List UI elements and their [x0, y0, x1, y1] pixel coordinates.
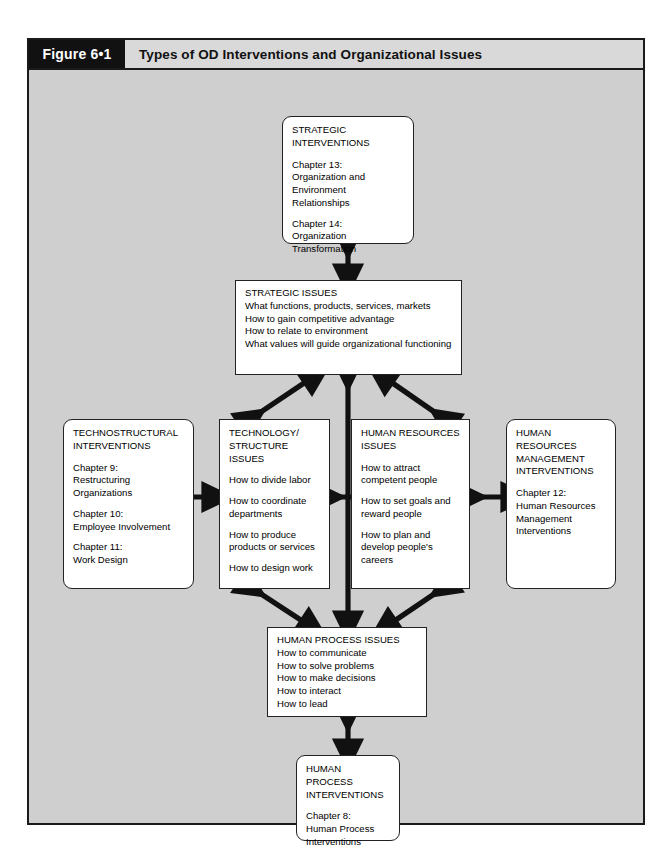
node-human-resources-issues[interactable]: HUMAN RESOURCES ISSUES How to attract co…	[351, 419, 470, 589]
node-item: How to attract competent people	[361, 462, 460, 488]
node-title: HUMAN RESOURCES MANAGEMENT INTERVENTIONS	[516, 427, 606, 478]
node-title: STRATEGIC INTERVENTIONS	[292, 124, 404, 150]
node-item: How to coordinate departments	[229, 495, 320, 521]
node-technostructural-interventions[interactable]: TECHNOSTRUCTURAL INTERVENTIONS Chapter 9…	[63, 419, 194, 589]
node-human-process-issues[interactable]: HUMAN PROCESS ISSUES How to communicate …	[267, 627, 427, 717]
node-item: Chapter 10: Employee Involvement	[73, 508, 184, 534]
node-line: How to gain competitive advantage	[245, 313, 452, 326]
node-strategic-issues[interactable]: STRATEGIC ISSUES What functions, product…	[235, 280, 462, 375]
node-technology-structure-issues[interactable]: TECHNOLOGY/ STRUCTURE ISSUES How to divi…	[219, 419, 330, 589]
node-line: What functions, products, services, mark…	[245, 300, 452, 313]
node-item: How to produce products or services	[229, 529, 320, 555]
node-title: STRATEGIC ISSUES	[245, 287, 452, 300]
node-title: TECHNOLOGY/ STRUCTURE ISSUES	[229, 427, 320, 465]
figure-frame: Figure 6•1 Types of OD Interventions and…	[27, 38, 645, 825]
node-item: How to set goals and reward people	[361, 495, 460, 521]
node-title: TECHNOSTRUCTURAL INTERVENTIONS	[73, 427, 184, 453]
node-item: Chapter 12: Human Resources Management I…	[516, 487, 606, 538]
arrow-technology-structure-issues-to-human-process-issues	[252, 588, 313, 628]
node-strategic-interventions[interactable]: STRATEGIC INTERVENTIONS Chapter 13: Orga…	[282, 116, 414, 244]
node-title: HUMAN PROCESS INTERVENTIONS	[306, 763, 390, 801]
node-item: Chapter 9: Restructuring Organizations	[73, 462, 184, 500]
diagram-canvas: STRATEGIC INTERVENTIONS Chapter 13: Orga…	[29, 70, 643, 825]
arrow-human-resources-issues-to-human-process-issues	[384, 588, 443, 628]
node-item: Chapter 14: Organization Transformation	[292, 218, 404, 256]
node-line: How to interact	[277, 685, 417, 698]
node-item: How to plan and develop people's careers	[361, 529, 460, 567]
node-title: HUMAN RESOURCES ISSUES	[361, 427, 460, 453]
node-line: How to relate to environment	[245, 325, 452, 338]
node-item: Chapter 11: Work Design	[73, 541, 184, 567]
node-line: How to solve problems	[277, 660, 417, 673]
node-human-resources-management-interventions[interactable]: HUMAN RESOURCES MANAGEMENT INTERVENTIONS…	[506, 419, 616, 589]
node-line: How to make decisions	[277, 672, 417, 685]
figure-caption: Types of OD Interventions and Organizati…	[125, 40, 643, 68]
node-line: How to communicate	[277, 647, 417, 660]
figure-title-bar: Figure 6•1 Types of OD Interventions and…	[29, 40, 643, 70]
node-item: Chapter 8: Human Process Interventions	[306, 810, 390, 848]
node-item: How to divide labor	[229, 474, 320, 487]
arrow-human-resources-issues-to-strategic-issues	[381, 375, 443, 418]
node-human-process-interventions[interactable]: HUMAN PROCESS INTERVENTIONS Chapter 8: H…	[296, 755, 400, 841]
node-title: HUMAN PROCESS ISSUES	[277, 634, 417, 647]
node-line: What values will guide organizational fu…	[245, 338, 452, 351]
figure-number: Figure 6•1	[29, 40, 125, 68]
node-line: How to lead	[277, 698, 417, 711]
arrow-technology-structure-issues-to-strategic-issues	[252, 375, 316, 418]
node-item: How to design work	[229, 562, 320, 575]
node-item: Chapter 13: Organization and Environment…	[292, 159, 404, 210]
